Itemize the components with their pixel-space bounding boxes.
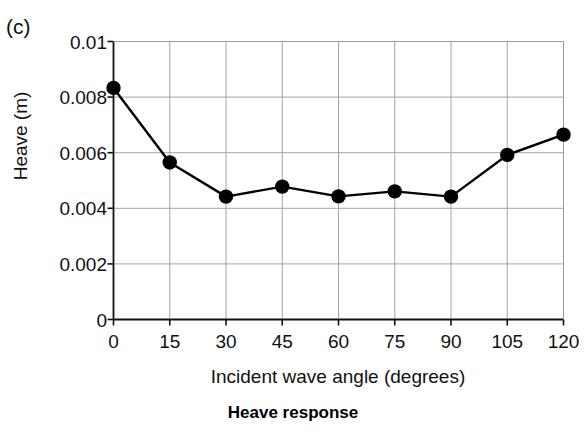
x-tick-label: 60 [328, 332, 349, 351]
chart-figure: (c) Heave (m) 00.0020.0040.0060.0080.01 … [0, 0, 586, 432]
x-tick-label: 75 [384, 332, 405, 351]
x-tick-label: 30 [215, 332, 236, 351]
x-tick-label: 120 [548, 332, 580, 351]
x-tick-label: 0 [108, 332, 119, 351]
x-tick-label: 45 [272, 332, 293, 351]
x-axis-title: Incident wave angle (degrees) [113, 366, 563, 388]
x-tick-label: 90 [440, 332, 461, 351]
figure-caption: Heave response [0, 403, 586, 423]
x-tick-label: 15 [159, 332, 180, 351]
x-tick-label: 105 [491, 332, 523, 351]
